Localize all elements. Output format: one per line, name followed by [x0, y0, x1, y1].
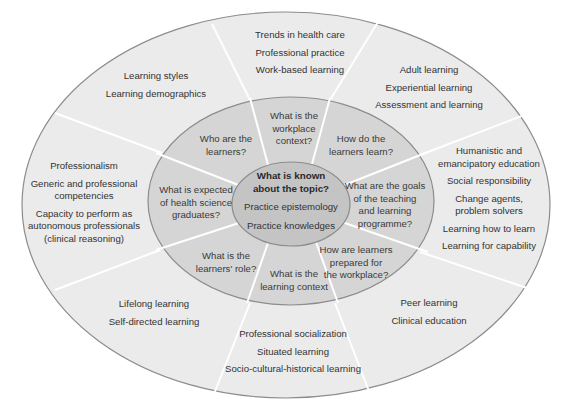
topics-learners: Learning styles Learning demographics — [106, 70, 206, 105]
topics-goals: Humanistic and emancipatory education So… — [438, 145, 540, 253]
question-prepared: How are learners prepared for the workpl… — [319, 244, 392, 282]
center-item: Practice epistemology — [244, 201, 338, 214]
question-who: Who are the learners? — [200, 133, 252, 158]
center-item: Practice knowledges — [244, 220, 338, 233]
topics-context: Professional socialization Situated lear… — [225, 328, 361, 381]
topics-how: Adult learning Experiential learning Ass… — [375, 64, 483, 117]
center-title-line2: about the topic? — [244, 183, 338, 196]
topics-expected: Professionalism Generic and professional… — [28, 160, 140, 245]
question-goals: What are the goals of the teaching and l… — [345, 180, 426, 230]
question-how: How do the learners learn? — [329, 133, 393, 158]
question-context: What is the learning context — [260, 268, 328, 293]
topics-prepared: Peer learning Clinical education — [391, 297, 466, 332]
center-label: What is known about the topic? Practice … — [244, 170, 338, 232]
question-role: What is the learners' role? — [196, 250, 257, 275]
center-title-line1: What is known — [244, 170, 338, 183]
question-workplace: What is the workplace context? — [270, 110, 318, 148]
topics-role: Lifelong learning Self-directed learning — [109, 298, 200, 333]
topics-workplace: Trends in health care Professional pract… — [255, 29, 345, 82]
question-expected: What is expected of health science gradu… — [159, 184, 233, 222]
